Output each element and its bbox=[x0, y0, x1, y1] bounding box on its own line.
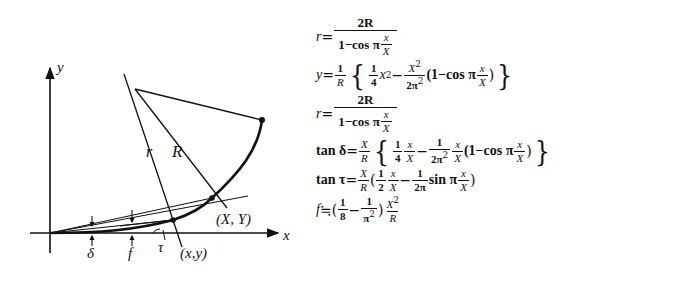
fraction: 2R 1−cos π xX bbox=[334, 93, 396, 134]
frac-num: x bbox=[459, 168, 468, 180]
frac-den: 8 bbox=[338, 209, 348, 222]
frac-num: x bbox=[382, 109, 391, 121]
frac-num: X bbox=[358, 168, 369, 180]
r-label: r bbox=[146, 143, 153, 160]
frac-den: 2π bbox=[412, 180, 428, 193]
frac-den: R bbox=[387, 211, 398, 224]
paren-text: (1−cos π bbox=[464, 144, 513, 158]
frac-num: x bbox=[405, 139, 414, 151]
denominator: 1−cos π xX bbox=[334, 30, 396, 57]
formula-lhs: tan τ bbox=[316, 173, 345, 187]
point-xy bbox=[170, 217, 176, 223]
frac-num: x bbox=[515, 139, 524, 151]
y-axis-label: y bbox=[55, 59, 64, 75]
end-point-XY bbox=[209, 195, 215, 201]
frac-den: 2π bbox=[406, 78, 418, 90]
R-label: R bbox=[171, 142, 183, 161]
frac-den: R bbox=[359, 151, 370, 164]
frac-num: x bbox=[478, 63, 487, 75]
exponent: 2 bbox=[415, 59, 421, 69]
sin-text: sin π bbox=[429, 173, 457, 187]
right-brace: } bbox=[497, 61, 512, 90]
left-brace: { bbox=[350, 61, 365, 90]
formula-r-2: r= 2R 1−cos π xX bbox=[316, 93, 675, 134]
radius-line-top bbox=[135, 89, 262, 120]
formula-list: r= 2R 1−cos π xX y= 1R { 14 x2 − X22π2 (… bbox=[316, 14, 675, 224]
den-text: 1−cos π bbox=[338, 115, 380, 128]
frac-num: 1 bbox=[393, 139, 403, 151]
formula-tan-tau: tan τ= XR ( 12 xX − 12π sin π xX ) bbox=[316, 168, 675, 193]
frac-den: 4 bbox=[369, 75, 379, 88]
numerator: 2R bbox=[355, 93, 375, 107]
fraction: 2R 1−cos π xX bbox=[334, 16, 396, 57]
frac-num: X bbox=[359, 139, 370, 151]
frac-num: x bbox=[453, 139, 462, 151]
frac-den: X bbox=[514, 151, 525, 164]
exponent: 2 bbox=[418, 76, 424, 86]
end-point-label: (X, Y) bbox=[216, 211, 251, 228]
approx-sign: ≒ bbox=[320, 203, 332, 217]
frac-den: R bbox=[358, 180, 369, 193]
paren-close: ) bbox=[526, 144, 531, 158]
formula-lhs: tan δ bbox=[316, 144, 346, 158]
frac-den: 2π bbox=[431, 153, 443, 165]
frac-den: R bbox=[335, 75, 346, 88]
frac-num: 1 bbox=[376, 168, 386, 180]
frac-den: X bbox=[477, 75, 488, 88]
formula-r-1: r= 2R 1−cos π xX bbox=[316, 16, 675, 57]
frac-den: X bbox=[404, 151, 415, 164]
tau-label: τ bbox=[158, 239, 164, 255]
right-brace: } bbox=[535, 137, 550, 166]
exponent: 2 bbox=[369, 209, 375, 219]
frac-num: 1 bbox=[435, 137, 445, 149]
point-label: (x,y) bbox=[180, 245, 207, 262]
left-brace: { bbox=[374, 137, 389, 166]
frac-num: 1 bbox=[336, 63, 346, 75]
frac-num: x bbox=[382, 32, 391, 44]
exponent: 2 bbox=[442, 150, 448, 160]
delta-label: δ bbox=[87, 245, 95, 261]
paren-close: ) bbox=[489, 68, 494, 82]
frac-den: 2 bbox=[376, 180, 386, 193]
frac-den: X bbox=[381, 121, 392, 134]
frac-num: 1 bbox=[415, 168, 425, 180]
frac-num: 1 bbox=[364, 196, 374, 208]
frac-den: X bbox=[381, 44, 392, 57]
frac-num: 1 bbox=[369, 63, 379, 75]
geometry-diagram: x y δ f τ r R (X, Y) (x,y) bbox=[0, 0, 300, 286]
denominator: 1−cos π xX bbox=[334, 107, 396, 134]
paren-text: (1−cos π bbox=[426, 68, 475, 82]
formula-tan-delta: tan δ= XR { 14 xX − 12π2 xX (1−cos π xX … bbox=[316, 137, 675, 165]
x-axis-label: x bbox=[282, 227, 290, 243]
exponent: 2 bbox=[393, 195, 399, 205]
numerator: 2R bbox=[355, 16, 375, 30]
frac-den: X bbox=[458, 180, 469, 193]
frac-num: x bbox=[389, 168, 398, 180]
end-point-top bbox=[259, 117, 265, 123]
frac-num: 1 bbox=[338, 197, 348, 209]
formula-y: y= 1R { 14 x2 − X22π2 (1−cos π xX ) } bbox=[316, 60, 675, 90]
f-label: f bbox=[128, 245, 134, 261]
frac-den: 4 bbox=[393, 151, 403, 164]
frac-den: X bbox=[388, 180, 399, 193]
den-text: 1−cos π bbox=[338, 38, 380, 51]
formula-f: f ≒ ( 18 − 1π2 ) X2R bbox=[316, 196, 675, 224]
frac-den: X bbox=[452, 151, 463, 164]
